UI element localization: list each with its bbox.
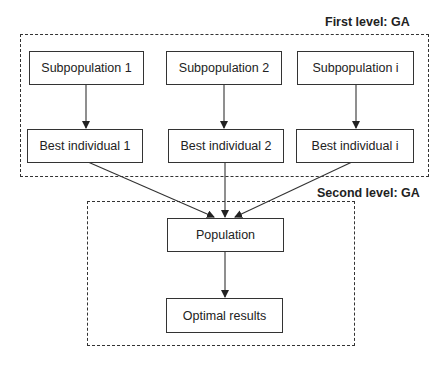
subpopulation-1-node: Subpopulation 1 <box>29 51 144 85</box>
best-individual-1-node: Best individual 1 <box>27 129 143 163</box>
best-individual-i-node: Best individual i <box>296 129 414 163</box>
subpopulation-2-node: Subpopulation 2 <box>166 51 282 85</box>
population-node: Population <box>167 218 284 252</box>
subpopulation-i-node: Subpopulation i <box>297 51 414 85</box>
best-individual-2-node: Best individual 2 <box>168 129 284 163</box>
optimal-results-node: Optimal results <box>166 298 283 333</box>
